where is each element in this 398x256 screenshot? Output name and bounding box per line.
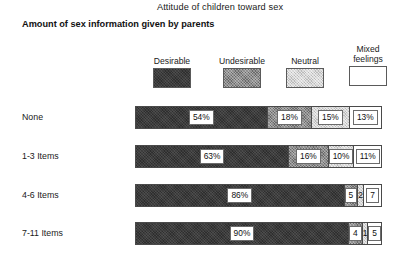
stacked-bar[interactable]: 90%415 (135, 222, 382, 245)
bar-segment-value: 5 (368, 226, 381, 241)
legend-label-desirable: Desirable (144, 56, 200, 66)
bar-segment-neutral[interactable]: 15% (311, 107, 348, 128)
stacked-bar[interactable]: 86%527 (135, 184, 382, 207)
legend-item-neutral[interactable]: Neutral (280, 56, 330, 88)
bar-segment-value: 18% (277, 110, 302, 125)
bar-segment-mixed[interactable]: 7 (363, 185, 381, 206)
chart-row: 7-11 Items90%415 (0, 222, 398, 245)
bar-segment-value: 63% (200, 149, 225, 164)
bar-segment-value: 86% (227, 188, 252, 203)
bar-segment-undesirable[interactable]: 16% (288, 146, 328, 167)
row-label: 7-11 Items (22, 228, 63, 238)
bar-segment-desirable[interactable]: 54% (136, 107, 267, 128)
bar-segment-value: 54% (189, 110, 214, 125)
chart-title: Attitude of children toward sex (0, 2, 398, 12)
bar-segment-value: 7 (366, 188, 379, 203)
bar-segment-undesirable[interactable]: 4 (348, 223, 362, 244)
y-axis-heading: Amount of sex information given by paren… (22, 18, 214, 30)
stacked-bar-chart: Attitude of children toward sex Amount o… (0, 0, 398, 256)
row-label: 4-6 Items (22, 190, 59, 200)
chart-row: None54%18%15%13% (0, 106, 398, 129)
row-label: None (22, 112, 43, 122)
legend-item-desirable[interactable]: Desirable (144, 56, 200, 88)
legend-label-undesirable: Undesirable (208, 56, 276, 66)
chart-row: 4-6 Items86%527 (0, 184, 398, 207)
legend-swatch-neutral (286, 68, 324, 88)
legend: DesirableUndesirableNeutralMixed feeling… (0, 44, 398, 92)
stacked-bar[interactable]: 54%18%15%13% (135, 106, 382, 129)
bar-segment-undesirable[interactable]: 18% (267, 107, 312, 128)
legend-item-undesirable[interactable]: Undesirable (208, 56, 276, 88)
bar-segment-mixed[interactable]: 13% (349, 107, 381, 128)
bar-segment-value: 4 (349, 226, 362, 241)
bar-segment-value: 10% (329, 149, 354, 164)
bar-segment-undesirable[interactable]: 5 (344, 185, 358, 206)
bar-segment-value: 5 (345, 188, 358, 203)
bar-segment-desirable[interactable]: 63% (136, 146, 288, 167)
bar-segment-value: 15% (318, 110, 343, 125)
legend-label-mixed: Mixed feelings (344, 44, 392, 64)
bar-segment-value: 13% (353, 110, 378, 125)
legend-swatch-undesirable (223, 68, 261, 88)
chart-title-text: Attitude of children toward sex (115, 2, 283, 12)
stacked-bar[interactable]: 63%16%10%11% (135, 145, 382, 168)
legend-label-neutral: Neutral (280, 56, 330, 66)
bar-segment-value: 1 (363, 229, 368, 237)
bar-segment-neutral[interactable]: 10% (328, 146, 354, 167)
bar-segment-desirable[interactable]: 90% (136, 223, 348, 244)
legend-swatch-desirable (153, 68, 191, 88)
bar-segment-value: 90% (230, 226, 255, 241)
legend-swatch-mixed (349, 66, 387, 86)
bar-segment-mixed[interactable]: 11% (353, 146, 381, 167)
bar-segment-value: 16% (296, 149, 321, 164)
bar-segment-mixed[interactable]: 5 (367, 223, 381, 244)
row-label: 1-3 Items (22, 151, 59, 161)
bar-segment-value: 11% (356, 149, 380, 164)
bar-segment-value: 2 (358, 191, 363, 199)
chart-row: 1-3 Items63%16%10%11% (0, 145, 398, 168)
legend-item-mixed[interactable]: Mixed feelings (344, 44, 392, 86)
bar-segment-desirable[interactable]: 86% (136, 185, 344, 206)
